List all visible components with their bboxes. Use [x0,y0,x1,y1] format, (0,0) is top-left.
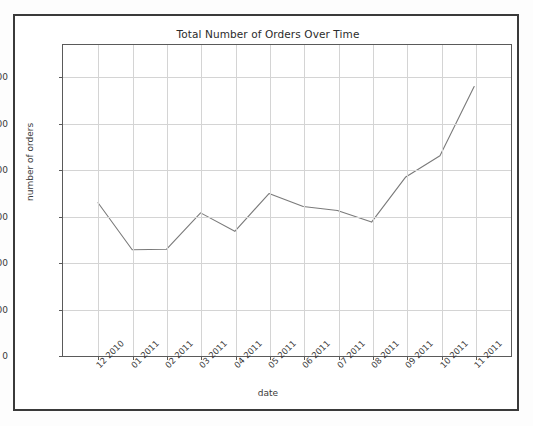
gridline-vertical [339,45,340,356]
figure-frame: Total Number of Orders Over Time 0500100… [13,14,519,411]
gridline-horizontal [63,170,511,171]
y-tick-label: 500 [0,305,8,315]
gridline-horizontal [63,263,511,264]
gridline-vertical [407,45,408,356]
y-axis-label: number of orders [25,123,35,201]
x-axis-label: date [15,388,521,398]
y-tick-mark [59,263,63,264]
gridline-horizontal [63,217,511,218]
y-tick-label: 3000 [0,72,8,82]
plot-area: 05001000150020002500300012 201001 201102… [62,44,512,357]
gridline-vertical [236,45,237,356]
screenshot-canvas: Total Number of Orders Over Time 0500100… [0,0,533,426]
gridline-horizontal [63,124,511,125]
y-tick-label: 2500 [0,119,8,129]
y-tick-label: 1000 [0,258,8,268]
gridline-vertical [133,45,134,356]
gridline-vertical [476,45,477,356]
gridline-vertical [201,45,202,356]
gridline-horizontal [63,77,511,78]
y-tick-mark [59,124,63,125]
y-tick-mark [59,170,63,171]
chart-figure: Total Number of Orders Over Time 0500100… [15,16,521,413]
y-tick-mark [59,310,63,311]
y-tick-label: 1500 [0,212,8,222]
y-tick-label: 0 [0,351,8,361]
y-tick-label: 2000 [0,165,8,175]
gridline-vertical [373,45,374,356]
gridline-vertical [98,45,99,356]
gridline-vertical [167,45,168,356]
gridline-horizontal [63,310,511,311]
y-tick-mark [59,77,63,78]
gridline-vertical [304,45,305,356]
chart-title: Total Number of Orders Over Time [15,28,521,40]
y-tick-mark [59,217,63,218]
y-tick-mark [59,356,63,357]
orders-line-series [98,87,474,250]
gridline-vertical [442,45,443,356]
gridline-vertical [270,45,271,356]
